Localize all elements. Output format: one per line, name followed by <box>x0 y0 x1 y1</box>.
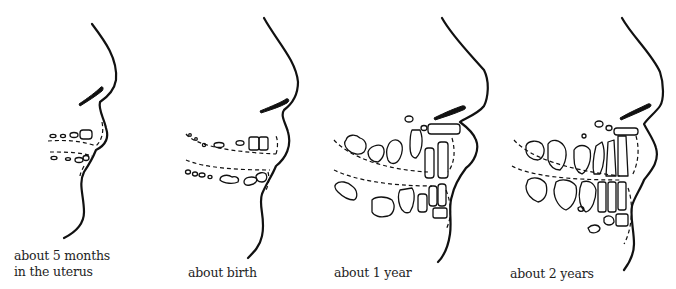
molar-upper <box>387 140 403 164</box>
tooth-bud <box>595 121 603 127</box>
panel-2-years <box>512 18 663 270</box>
incisor-lower <box>598 182 606 212</box>
molar-lower <box>372 197 394 217</box>
nostril <box>620 104 651 120</box>
tooth-bud <box>80 130 92 139</box>
tooth-bud <box>195 138 198 141</box>
tooth-bud <box>66 158 71 161</box>
tooth-crown <box>220 175 239 183</box>
tooth-crown <box>244 177 257 185</box>
canine-upper <box>410 130 422 158</box>
tooth-bud <box>186 170 191 174</box>
tooth-bud <box>202 143 205 146</box>
incisor-lower <box>438 184 446 206</box>
molar-lower <box>526 178 547 202</box>
tooth-bud <box>582 134 586 138</box>
tooth-bud <box>70 133 78 138</box>
caption-line: in the uterus <box>14 264 110 280</box>
caption-1-year: about 1 year <box>334 265 411 281</box>
face-profile <box>438 18 488 262</box>
tooth-crown <box>256 173 267 182</box>
tooth-bud <box>199 173 205 177</box>
molar-upper <box>368 145 384 162</box>
incisor-lower <box>618 182 626 210</box>
incisor-lower <box>433 208 447 218</box>
molar-lower <box>399 188 415 213</box>
upper-gum-dash-2 <box>448 138 454 172</box>
lower-gum-dash <box>186 160 270 170</box>
tooth-bud <box>588 225 600 233</box>
upper-gum-dash <box>334 140 428 172</box>
tooth-bud <box>604 216 614 225</box>
tooth-bud <box>50 134 56 137</box>
tooth-bud <box>421 126 427 131</box>
caption-5-months: about 5 months in the uterus <box>14 248 110 280</box>
tooth-development-diagram: about 5 months in the uterus about birth… <box>0 0 676 289</box>
face-profile <box>248 18 298 258</box>
incisor-lower <box>429 186 437 206</box>
caption-line: about 5 months <box>14 248 110 264</box>
caption-birth: about birth <box>188 265 257 281</box>
incisor-upper <box>606 140 616 176</box>
tooth-bud <box>616 214 628 226</box>
tooth-bud <box>208 175 212 178</box>
lower-gum-dash <box>512 166 620 180</box>
caption-2-years: about 2 years <box>510 266 594 282</box>
tooth-bud <box>405 116 413 122</box>
canine-upper <box>593 142 604 174</box>
incisor-upper <box>425 148 434 178</box>
tooth-bud <box>214 143 224 148</box>
upper-gum-dash-2 <box>632 136 638 176</box>
molar-lower <box>554 180 577 210</box>
tooth-crown <box>249 137 259 150</box>
tooth-bud <box>606 126 612 131</box>
incisor-lower <box>418 194 427 212</box>
tooth-bud <box>51 156 57 159</box>
tooth-crown <box>428 124 460 134</box>
tooth-bud <box>61 134 66 137</box>
face-profile <box>64 24 116 238</box>
molar-upper <box>548 140 566 170</box>
incisor-upper <box>618 136 628 176</box>
panel-birth <box>186 18 299 258</box>
panel-5-months <box>48 24 116 238</box>
tooth-bud <box>75 158 83 163</box>
tooth-bud <box>189 134 192 137</box>
lip-dash-upper <box>96 122 103 146</box>
molar-lower <box>335 182 357 200</box>
molar-upper <box>574 146 591 175</box>
nostril <box>434 106 466 120</box>
panel-1-year <box>334 18 488 262</box>
tooth-bud <box>193 172 198 176</box>
upper-gum-dash-2 <box>276 136 278 154</box>
incisor-upper <box>438 142 448 178</box>
tooth-bud <box>83 156 89 161</box>
upper-gum-dash <box>48 141 96 146</box>
incisor-lower <box>608 182 616 212</box>
tooth-bud <box>236 141 244 146</box>
tooth-crown <box>614 128 638 135</box>
molar-upper <box>345 135 366 154</box>
molar-upper <box>526 141 544 160</box>
tooth-crown <box>259 137 268 150</box>
